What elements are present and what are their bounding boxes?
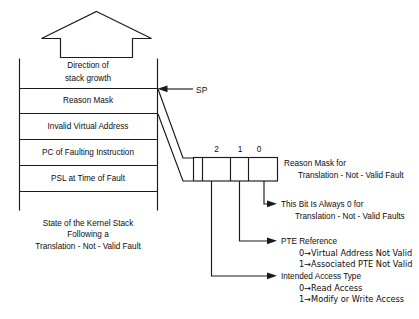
bitfield-title-line2: Translation - Not - Valid Fault <box>284 170 404 182</box>
bit-label-0: 0 <box>249 145 269 153</box>
sp-label: SP <box>196 86 208 94</box>
leader-bit2 <box>212 181 278 279</box>
sp-pointer <box>158 85 194 92</box>
stack-cell-invalid-virtual-address: Invalid Virtual Address <box>19 123 157 131</box>
stack-caption-line2: Following a <box>3 229 173 240</box>
expansion-line-lower <box>158 114 193 181</box>
annotation-bit-2-heading1: Intended Access Type <box>281 272 361 281</box>
leader-bit0 <box>264 181 277 207</box>
bit-label-2: 2 <box>207 145 227 153</box>
stack-caption: State of the Kernel Stack Following a Tr… <box>3 218 173 252</box>
annotation-bit-1: PTE Reference 0→Virtual Address Not Vali… <box>281 236 412 271</box>
growth-direction-line2: stack growth <box>19 75 157 83</box>
bitfield-title-line1: Reason Mask for <box>284 159 346 168</box>
bitfield-title: Reason Mask for Translation - Not - Vali… <box>284 158 404 181</box>
annotation-bit-0-heading2: Translation - Not - Valid Faults <box>281 211 405 223</box>
stack-cell-pc-of-faulting-instruction: PC of Faulting Instruction <box>19 149 157 157</box>
stack-caption-line3: Translation - Not - Valid Fault <box>3 241 173 252</box>
annotation-bit-2-value-1: 1→Modify or Write Access <box>281 294 404 306</box>
annotation-bit-2-value-0: 0→Read Access <box>281 283 404 295</box>
annotation-bit-1-value-0: 0→Virtual Address Not Valid <box>281 248 412 260</box>
annotation-bit-2: Intended Access Type 0→Read Access 1→Mod… <box>281 271 404 306</box>
up-arrow-icon <box>42 12 152 58</box>
stack-cell-reason-mask: Reason Mask <box>19 97 157 105</box>
leader-bit1 <box>240 181 278 244</box>
annotation-bit-0-heading1: This Bit Is Always 0 for <box>281 200 363 209</box>
annotation-bit-1-value-1: 1→Associated PTE Not Valid <box>281 259 412 271</box>
bit-label-1: 1 <box>230 145 250 153</box>
annotation-bit-0: This Bit Is Always 0 for Translation - N… <box>281 199 405 222</box>
stack-caption-line1: State of the Kernel Stack <box>3 218 173 229</box>
growth-direction-line1: Direction of <box>19 62 157 70</box>
expansion-line-upper <box>158 89 193 158</box>
annotation-bit-1-heading1: PTE Reference <box>281 237 337 246</box>
stack-cell-psl-at-time-of-fault: PSL at Time of Fault <box>19 175 157 183</box>
bitfield-box <box>194 158 278 182</box>
